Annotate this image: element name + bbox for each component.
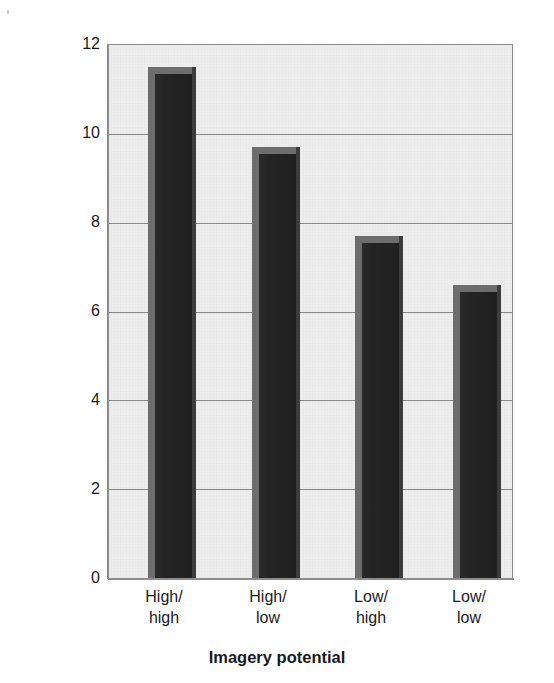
x-tick-label-low-low: Low/ low — [417, 586, 521, 628]
bar-edge-shadow — [296, 147, 300, 578]
x-tick-line-2: low — [216, 607, 320, 628]
x-tick-label-low-high: Low/ high — [319, 586, 423, 628]
x-tick-line-1: Low/ — [319, 586, 423, 607]
bar-edge-highlight — [355, 236, 362, 578]
bar-high-low[interactable] — [252, 147, 300, 578]
bar-edge-highlight — [252, 147, 259, 578]
bar-face — [453, 285, 501, 578]
bar-edge-highlight — [453, 285, 460, 578]
x-tick-line-1: High/ — [112, 586, 216, 607]
bar-edge-highlight-top — [148, 67, 196, 74]
y-tick-label: 10 — [60, 124, 100, 142]
y-tick-label: 8 — [60, 213, 100, 231]
bar-face — [355, 236, 403, 578]
y-axis-tick-labels: 12 10 8 6 4 2 0 — [52, 0, 100, 683]
y-axis-title: Average number of pairs recalled — [0, 0, 40, 683]
bar-edge-shadow — [497, 285, 501, 578]
x-tick-line-2: high — [112, 607, 216, 628]
bar-edge-shadow — [399, 236, 403, 578]
x-tick-line-2: low — [417, 607, 521, 628]
bar-face — [148, 67, 196, 578]
x-tick-label-high-low: High/ low — [216, 586, 320, 628]
bar-face — [252, 147, 300, 578]
bar-chart-figure: Average number of pairs recalled 12 10 8… — [0, 0, 554, 683]
bar-high-high[interactable] — [148, 67, 196, 578]
plot-area — [108, 44, 513, 578]
bar-low-high[interactable] — [355, 236, 403, 578]
x-axis-title: Imagery potential — [0, 648, 554, 667]
y-axis-line — [107, 44, 109, 579]
bar-edge-shadow — [192, 67, 196, 578]
y-tick-label: 12 — [60, 35, 100, 53]
y-tick-label: 2 — [60, 480, 100, 498]
scan-speckle — [7, 10, 9, 14]
x-tick-line-2: high — [319, 607, 423, 628]
y-tick-label: 0 — [60, 569, 100, 587]
bar-edge-highlight — [148, 67, 155, 578]
bar-edge-highlight-top — [453, 285, 501, 292]
x-tick-line-1: High/ — [216, 586, 320, 607]
x-tick-line-1: Low/ — [417, 586, 521, 607]
x-tick-label-high-high: High/ high — [112, 586, 216, 628]
x-axis-line — [108, 578, 514, 580]
y-tick-label: 4 — [60, 391, 100, 409]
bar-edge-highlight-top — [252, 147, 300, 154]
bar-edge-highlight-top — [355, 236, 403, 243]
y-tick-label: 6 — [60, 302, 100, 320]
bar-low-low[interactable] — [453, 285, 501, 578]
